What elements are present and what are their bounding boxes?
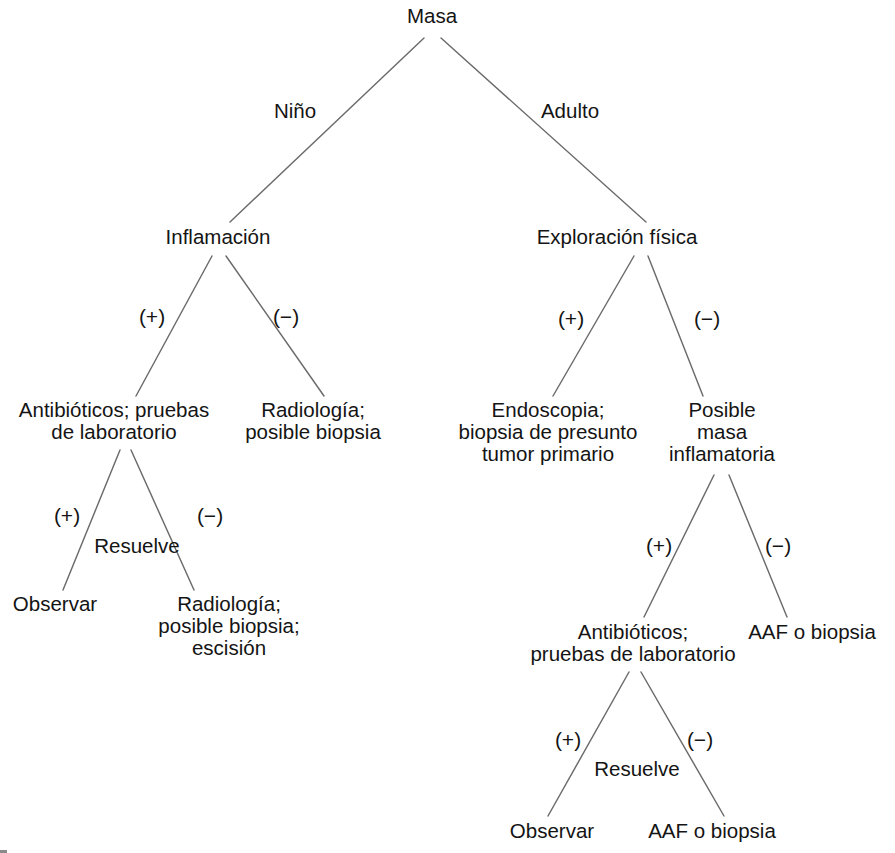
edge-label-inflamacion-negative: (−) (273, 305, 299, 328)
node-text-line: Inflamación (166, 225, 271, 248)
node-text-line: Radiología; (177, 592, 281, 615)
node-observar-inferior: Observar (510, 819, 594, 842)
edge-label-antibioticos2-negative: (−) (687, 728, 713, 751)
edge-label-exploracion-positive: (+) (558, 307, 584, 330)
tree-canvas: Niño Adulto (+) (−) (+) (−) (+) (−) (+) … (0, 0, 895, 853)
edge-label-posiblemasa-negative: (−) (765, 534, 791, 557)
node-radiologia-biopsia-escision: Radiología;posible biopsia;escisión (158, 592, 299, 659)
node-text-line: Antibióticos; (578, 620, 689, 643)
node-text-line: masa (697, 420, 748, 443)
node-text-line: Posible (688, 398, 755, 421)
edge-label-exploracion-negative: (−) (694, 307, 720, 330)
node-text-line: Antibióticos; pruebas (19, 398, 209, 421)
edge-label-posiblemasa-positive: (+) (646, 534, 672, 557)
node-aaf-o-biopsia-derecha: AAF o biopsia (748, 620, 876, 643)
node-text-line: de laboratorio (51, 420, 176, 443)
decision-tree-diagram: Niño Adulto (+) (−) (+) (−) (+) (−) (+) … (0, 0, 895, 853)
edge-label-inflamacion-positive: (+) (139, 305, 165, 328)
node-posible-masa-inflamatoria: Posiblemasainflamatoria (669, 398, 776, 465)
node-endoscopia-biopsia-tumor-primario: Endoscopia;biopsia de presuntotumor prim… (459, 398, 638, 465)
edge-label-antibioticos2-positive: (+) (555, 728, 581, 751)
node-text-line: AAF o biopsia (748, 620, 876, 643)
annotation-resuelve-left: Resuelve (94, 534, 179, 557)
node-masa: Masa (407, 4, 458, 27)
node-text-line: escisión (192, 636, 266, 659)
node-text-line: biopsia de presunto (459, 420, 638, 443)
node-text-line: tumor primario (482, 442, 614, 465)
annotation-resuelve-right: Resuelve (594, 757, 679, 780)
edge-line-root-adulto (441, 38, 646, 222)
node-text-line: Endoscopia; (492, 398, 605, 421)
node-text-line: Observar (13, 592, 97, 615)
node-text-line: Radiología; (261, 398, 365, 421)
node-inflamacion: Inflamación (166, 225, 271, 248)
node-observar-izquierda: Observar (13, 592, 97, 615)
edge-label-nino: Niño (274, 99, 316, 122)
node-text-line: Observar (510, 819, 594, 842)
node-text-line: Masa (407, 4, 458, 27)
node-aaf-o-biopsia-inferior: AAF o biopsia (648, 819, 776, 842)
node-text-line: AAF o biopsia (648, 819, 776, 842)
node-exploracion-fisica: Exploración física (537, 225, 698, 248)
edge-label-antibioticos1-negative: (−) (197, 504, 223, 527)
edge-line-antibioticos1-negative (131, 450, 194, 590)
edge-label-antibioticos1-positive: (+) (54, 504, 80, 527)
node-text-line: posible biopsia; (158, 614, 299, 637)
nodes-group: Masa Inflamación Exploración física Anti… (13, 4, 877, 842)
node-text-line: Exploración física (537, 225, 698, 248)
node-text-line: posible biopsia (245, 420, 381, 443)
node-antibioticos-pruebas-laboratorio-derecha: Antibióticos;pruebas de laboratorio (530, 620, 735, 665)
edge-label-adulto: Adulto (541, 99, 599, 122)
node-text-line: pruebas de laboratorio (530, 642, 735, 665)
node-text-line: inflamatoria (669, 442, 776, 465)
edge-line-root-nino (230, 38, 424, 222)
node-radiologia-posible-biopsia: Radiología;posible biopsia (245, 398, 381, 443)
node-antibioticos-pruebas-laboratorio: Antibióticos; pruebasde laboratorio (19, 398, 209, 443)
